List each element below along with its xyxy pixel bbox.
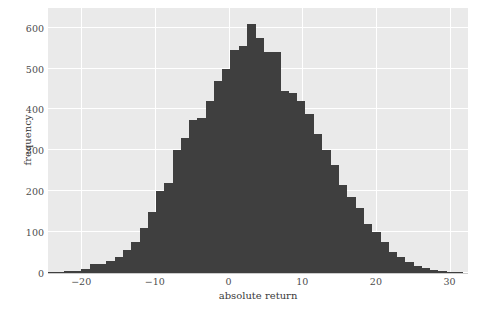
histogram-bar [363,224,372,273]
histogram-bar [131,242,140,273]
y-tick-label: 400 [26,104,44,115]
x-tick-label: 20 [370,276,382,287]
y-tick-label: 100 [26,227,44,238]
y-tick-label: 200 [26,186,44,197]
histogram-bars [48,8,468,273]
histogram-bar [330,165,339,273]
x-tick-label: 30 [444,276,456,287]
plot-area [48,8,468,273]
histogram-bar [263,52,272,273]
y-axis-label: frequency [22,115,33,166]
histogram-bar [396,257,405,273]
histogram-bar [297,101,306,273]
x-tick-label: −10 [145,276,165,287]
y-tick-label: 600 [26,22,44,33]
y-tick-label: 0 [38,268,44,279]
y-tick-label: 500 [26,63,44,74]
histogram-bar [230,50,239,273]
x-tick-label: −20 [71,276,91,287]
x-tick-label: 10 [296,276,308,287]
x-tick-label: 0 [225,276,231,287]
histogram-bar [98,264,107,273]
x-axis-label: absolute return [48,290,468,301]
histogram-bar [164,183,173,273]
histogram-figure: −20−100102030 0100200300400500600 absolu… [0,0,486,313]
x-axis-line [48,273,468,274]
histogram-bar [197,118,206,273]
